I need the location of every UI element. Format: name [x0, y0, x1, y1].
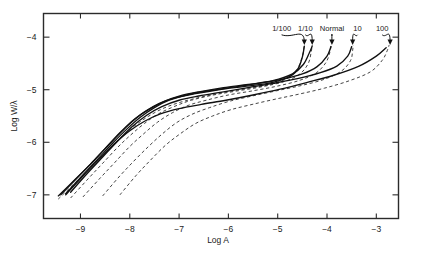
- x-tick-label: −6: [224, 224, 234, 234]
- y-tick-label: −7: [27, 190, 37, 200]
- x-tick-label: −8: [125, 224, 135, 234]
- x-tick-label: −5: [273, 224, 283, 234]
- curve-annotation-label: 1/100: [272, 24, 291, 33]
- y-tick-label: −5: [27, 85, 37, 95]
- curve-annotation-label: 10: [353, 24, 361, 33]
- chart-background: [0, 0, 426, 258]
- x-tick-label: −3: [371, 224, 381, 234]
- x-axis-label: Log A: [207, 235, 229, 245]
- curve-annotation-label: 1/10: [298, 24, 313, 33]
- curve-of-growth-chart: 1/1001/10Normal10100 −9−8−7−6−5−4−3 −4−5…: [0, 0, 426, 258]
- curve-annotation-label: Normal: [320, 24, 345, 33]
- y-tick-label: −4: [27, 32, 37, 42]
- y-axis-label: Log W/λ: [9, 100, 19, 132]
- x-tick-label: −4: [322, 224, 332, 234]
- x-tick-label: −9: [76, 224, 86, 234]
- x-tick-label: −7: [174, 224, 184, 234]
- figure-container: 1/1001/10Normal10100 −9−8−7−6−5−4−3 −4−5…: [0, 0, 426, 258]
- y-tick-label: −6: [27, 137, 37, 147]
- curve-annotation-label: 100: [376, 24, 389, 33]
